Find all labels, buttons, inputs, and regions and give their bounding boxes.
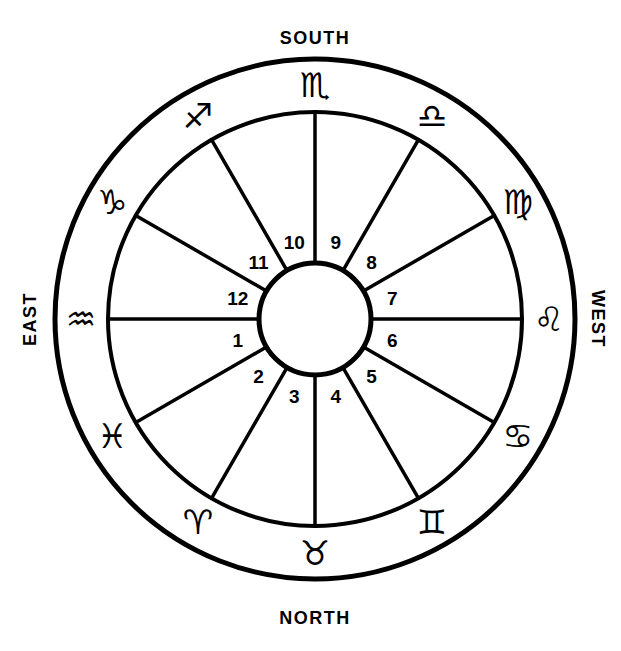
- cusp-2: [136, 347, 267, 423]
- cardinal-label-north: NORTH: [279, 608, 351, 628]
- house-number-9: 9: [330, 232, 341, 253]
- house-cusp-lines: [108, 112, 522, 526]
- cusp-3: [212, 368, 288, 499]
- zodiac-glyph-libra: ♎: [417, 96, 447, 136]
- zodiac-glyph-taurus: ♉: [300, 533, 330, 573]
- house-number-7: 7: [387, 288, 398, 309]
- house-number-4: 4: [330, 386, 341, 407]
- cusp-5: [343, 368, 419, 499]
- house-number-6: 6: [387, 330, 398, 351]
- zodiac-glyph-scorpio: ♏: [300, 65, 330, 105]
- zodiac-glyph-gemini: ♊: [417, 502, 447, 542]
- zodiac-glyph-virgo: ♍: [502, 182, 532, 222]
- zodiac-glyph-leo: ♌: [534, 299, 564, 339]
- house-number-5: 5: [366, 366, 377, 387]
- cusp-12: [136, 216, 267, 292]
- cusp-6: [364, 347, 495, 423]
- astrology-chart-wheel: ♏♎♍♌♋♊♉♈♓♒♑♐ 123456789101112 SOUTH NORTH…: [0, 0, 621, 651]
- zodiac-glyph-pisces: ♓: [97, 416, 127, 456]
- cusp-8: [364, 216, 495, 292]
- cusp-11: [212, 140, 288, 271]
- inner-circle: [259, 263, 371, 375]
- house-number-1: 1: [232, 330, 243, 351]
- house-number-10: 10: [284, 232, 305, 253]
- zodiac-glyph-aries: ♈: [183, 502, 213, 542]
- zodiac-glyph-aquarius: ♒: [66, 299, 96, 339]
- zodiac-glyph-cancer: ♋: [502, 416, 532, 456]
- cusp-9: [343, 140, 419, 271]
- cardinal-label-west: WEST: [588, 290, 608, 348]
- cardinal-label-east: EAST: [20, 292, 40, 346]
- zodiac-glyph-sagittarius: ♐: [183, 96, 213, 136]
- house-number-3: 3: [289, 386, 300, 407]
- chart-wheel-svg: ♏♎♍♌♋♊♉♈♓♒♑♐ 123456789101112 SOUTH NORTH…: [0, 0, 621, 651]
- house-number-2: 2: [253, 366, 264, 387]
- house-number-11: 11: [248, 252, 269, 273]
- house-number-12: 12: [227, 288, 248, 309]
- house-number-8: 8: [366, 252, 377, 273]
- zodiac-glyph-capricorn: ♑: [97, 182, 127, 222]
- cardinal-label-south: SOUTH: [280, 28, 351, 48]
